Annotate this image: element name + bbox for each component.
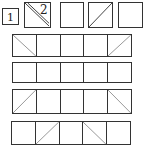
cell xyxy=(83,122,107,144)
cell xyxy=(84,90,108,113)
cell xyxy=(36,122,60,144)
diagonal-up-icon xyxy=(36,122,59,144)
diagonal-up-icon xyxy=(13,90,36,113)
grid-row-2 xyxy=(12,62,132,83)
cell xyxy=(12,122,36,144)
box-2: 2 xyxy=(24,2,51,28)
diagonal-up-icon xyxy=(108,35,131,56)
cell xyxy=(61,35,85,56)
box-3 xyxy=(60,2,84,28)
cell xyxy=(107,122,130,144)
box-1: 1 xyxy=(2,8,19,25)
cell xyxy=(13,90,37,113)
cell xyxy=(37,90,61,113)
diagonal-down-icon xyxy=(13,35,36,56)
cell xyxy=(84,63,108,82)
box-4 xyxy=(88,2,113,28)
grid-row-1 xyxy=(12,34,132,57)
box-5 xyxy=(118,2,143,28)
diagonal-down-icon xyxy=(108,90,131,113)
box-2-label: 2 xyxy=(40,4,48,16)
cell xyxy=(13,63,37,82)
cell xyxy=(37,35,61,56)
box-1-label: 1 xyxy=(7,12,14,23)
diagonal-down-icon xyxy=(83,122,106,144)
cell xyxy=(84,35,108,56)
cell xyxy=(60,122,84,144)
cell xyxy=(108,63,131,82)
grid-row-4 xyxy=(11,121,131,145)
cell xyxy=(61,90,85,113)
diagonal-up-icon xyxy=(89,3,112,27)
cell xyxy=(108,35,131,56)
cell xyxy=(61,63,85,82)
grid-row-3 xyxy=(12,89,132,114)
cell xyxy=(108,90,131,113)
cell xyxy=(13,35,37,56)
cell xyxy=(37,63,61,82)
